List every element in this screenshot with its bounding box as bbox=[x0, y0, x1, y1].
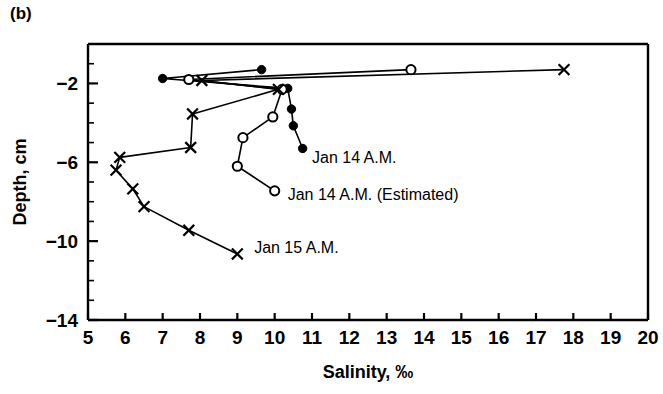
marker-cross-x bbox=[139, 201, 150, 212]
marker-open-circle bbox=[184, 75, 193, 84]
x-tick-label: 17 bbox=[525, 327, 546, 348]
salinity-depth-chart: 567891011121314151617181920 −2−6−10−14 J… bbox=[0, 0, 663, 394]
marker-open-circle bbox=[270, 186, 279, 195]
marker-cross-x bbox=[111, 165, 122, 176]
y-tick-label: −2 bbox=[56, 73, 78, 94]
marker-filled-circle bbox=[257, 65, 265, 73]
x-tick-label: 6 bbox=[120, 327, 131, 348]
y-axis-title: Depth, cm bbox=[10, 138, 30, 225]
marker-cross-x bbox=[183, 225, 194, 236]
y-axis-ticks bbox=[88, 44, 98, 320]
series-label-cross-x: Jan 15 A.M. bbox=[254, 239, 339, 256]
axis-frame bbox=[88, 44, 648, 320]
marker-filled-circle bbox=[298, 144, 306, 152]
figure-panel: (b) 567891011121314151617181920 −2−6−10−… bbox=[0, 0, 663, 394]
series-annotations: Jan 14 A.M.Jan 14 A.M. (Estimated)Jan 15… bbox=[254, 149, 458, 256]
series-label-filled-circle: Jan 14 A.M. bbox=[312, 149, 397, 166]
x-tick-label: 19 bbox=[600, 327, 621, 348]
marker-filled-circle bbox=[287, 105, 295, 113]
x-tick-label: 15 bbox=[451, 327, 473, 348]
y-tick-label: −14 bbox=[46, 310, 79, 331]
marker-cross-x bbox=[232, 249, 243, 260]
x-tick-label: 12 bbox=[339, 327, 360, 348]
x-tick-label: 8 bbox=[195, 327, 206, 348]
marker-open-circle bbox=[233, 162, 242, 171]
x-axis-tick-labels: 567891011121314151617181920 bbox=[83, 327, 659, 348]
x-axis-title: Salinity, ‰ bbox=[323, 362, 414, 382]
x-tick-label: 10 bbox=[264, 327, 285, 348]
x-tick-label: 9 bbox=[232, 327, 243, 348]
x-tick-label: 13 bbox=[376, 327, 397, 348]
y-axis-tick-labels: −2−6−10−14 bbox=[46, 73, 79, 331]
marker-open-circle bbox=[268, 112, 277, 121]
x-tick-label: 20 bbox=[637, 327, 658, 348]
x-tick-label: 18 bbox=[563, 327, 584, 348]
series-label-open-circle: Jan 14 A.M. (Estimated) bbox=[288, 186, 459, 203]
y-tick-label: −10 bbox=[46, 231, 78, 252]
marker-filled-circle bbox=[289, 122, 297, 130]
marker-open-circle bbox=[238, 133, 247, 142]
x-tick-label: 11 bbox=[302, 327, 323, 348]
x-tick-label: 14 bbox=[413, 327, 435, 348]
marker-filled-circle bbox=[158, 74, 166, 82]
y-tick-label: −6 bbox=[56, 152, 78, 173]
x-tick-label: 7 bbox=[157, 327, 168, 348]
x-tick-label: 16 bbox=[488, 327, 509, 348]
marker-cross-x bbox=[127, 184, 138, 195]
marker-open-circle bbox=[406, 65, 415, 74]
series-line-open-circle bbox=[189, 70, 411, 191]
x-tick-label: 5 bbox=[83, 327, 94, 348]
